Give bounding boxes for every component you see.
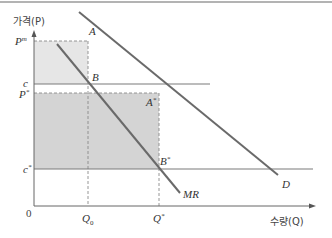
x-axis-label: 수량(Q) xyxy=(270,216,304,227)
pstar-label: P* xyxy=(18,88,30,100)
cstar-label: c* xyxy=(23,163,32,175)
q0-label: Q0 xyxy=(82,212,94,227)
point-bstar-label: B* xyxy=(160,155,171,167)
qstar-label: Q* xyxy=(153,212,165,224)
x-axis-arrow-icon xyxy=(309,204,316,209)
point-a-label: A xyxy=(88,25,96,37)
mr-curve-label: MR xyxy=(182,188,199,200)
demand-curve-label: D xyxy=(281,178,290,190)
monopoly-diagram: 가격(P) 수량(Q) 0 Pm c P* c* Q0 Q* A B A* B*… xyxy=(0,0,332,238)
y-axis-arrow-icon xyxy=(32,30,37,37)
point-b-label: B xyxy=(92,71,99,83)
pm-label: Pm xyxy=(14,35,27,47)
y-axis-label: 가격(P) xyxy=(13,15,45,27)
origin-label: 0 xyxy=(26,207,32,219)
shaded-area-pstar xyxy=(34,93,159,169)
